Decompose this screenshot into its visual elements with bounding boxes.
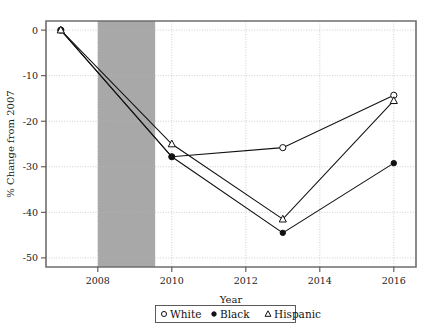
tick-label-x: 2008 [86, 275, 110, 286]
x-axis-title: Year [219, 294, 243, 305]
tick-label-x: 2016 [382, 275, 406, 286]
tick-label-y: -10 [23, 70, 38, 81]
marker-filled-circle [391, 160, 396, 165]
line-chart: 0-10-20-30-40-50 20082010201220142016 % … [0, 0, 428, 336]
chart-figure: 0-10-20-30-40-50 20082010201220142016 % … [0, 0, 428, 336]
legend-label-black: Black [220, 308, 250, 320]
tick-label-x: 2014 [308, 275, 332, 286]
legend-entries: WhiteBlackHispanic [161, 308, 321, 320]
tick-label-y: -40 [23, 207, 38, 218]
y-axis-tick-labels: 0-10-20-30-40-50 [23, 25, 38, 264]
tick-label-x: 2010 [160, 275, 184, 286]
marker-filled-circle [280, 230, 285, 235]
tick-label-y: -20 [23, 116, 38, 127]
tick-label-x: 2012 [234, 275, 258, 286]
marker-open-circle [161, 311, 166, 316]
tick-label-y: 0 [32, 25, 38, 36]
chart-legend: WhiteBlackHispanic [156, 306, 322, 323]
legend-label-hispanic: Hispanic [274, 308, 321, 320]
marker-open-circle [280, 145, 286, 151]
marker-filled-circle [169, 154, 174, 159]
tick-label-y: -30 [23, 161, 38, 172]
marker-filled-circle [212, 312, 216, 316]
legend-entry-hispanic: Hispanic [265, 308, 321, 320]
x-axis-tick-labels: 20082010201220142016 [86, 275, 406, 286]
y-axis-title: % Change from 2007 [5, 90, 16, 197]
tick-label-y: -50 [23, 252, 38, 263]
legend-label-white: White [170, 308, 201, 320]
recession-band [98, 21, 155, 267]
